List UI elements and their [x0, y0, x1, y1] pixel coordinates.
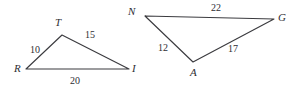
geometry-figure: R T I 10 15 20 N G A 22 12 17 [0, 0, 293, 93]
side-label-RI: 20 [70, 76, 80, 86]
side-label-TI: 15 [85, 30, 95, 40]
triangle-NAG-outline [145, 16, 274, 62]
side-label-NA: 12 [158, 43, 168, 53]
side-label-AG: 17 [228, 44, 238, 54]
vertex-label-T: T [55, 17, 61, 28]
vertex-label-A: A [190, 67, 197, 78]
vertex-label-G: G [278, 12, 286, 23]
vertex-label-R: R [14, 63, 21, 74]
vertex-label-N: N [128, 6, 135, 17]
side-label-RT: 10 [30, 45, 40, 55]
geometry-canvas [0, 0, 293, 93]
vertex-label-I: I [132, 63, 136, 74]
side-label-NG: 22 [211, 3, 221, 13]
triangle-RTI-outline [26, 35, 129, 69]
